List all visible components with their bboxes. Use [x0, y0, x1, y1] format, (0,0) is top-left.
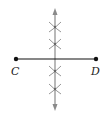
perpendicular-bisector-diagram: C D: [0, 0, 108, 114]
label-d: D: [90, 65, 100, 78]
point-d: [94, 57, 98, 61]
point-c: [14, 57, 18, 61]
label-c: C: [11, 65, 20, 78]
